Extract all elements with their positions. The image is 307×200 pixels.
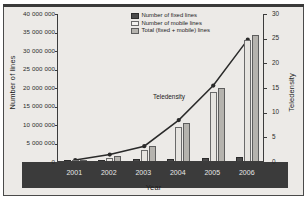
y2-tick-label: 30 xyxy=(272,11,279,17)
legend-label: Total (fixed + mobile) lines xyxy=(142,28,210,34)
teledensity-annotation: Teledensity xyxy=(153,93,185,100)
bar-mobile-2005 xyxy=(210,92,217,162)
bar-mobile-2004 xyxy=(175,127,182,162)
y2-tick-label: 0 xyxy=(272,159,276,165)
x-axis-label: Year xyxy=(0,183,307,192)
teledensity-point-2002 xyxy=(108,153,112,157)
legend-label: Number of mobile lines xyxy=(142,21,202,27)
y-tick-label: 35 000 000 xyxy=(1,29,55,35)
legend-item-mobile: Number of mobile lines xyxy=(131,21,210,27)
legend-item-total: Total (fixed + mobile) lines xyxy=(131,28,210,34)
legend-item-fixed: Number of fixed lines xyxy=(131,13,210,19)
x-axis-baseline xyxy=(57,161,264,163)
bar-total-2004 xyxy=(183,123,190,162)
y2-axis-label: Teledensity xyxy=(287,58,296,128)
y-tick-label: 40 000 000 xyxy=(1,11,55,17)
y2-tick-label: 10 xyxy=(272,109,279,115)
legend-swatch-fixed-icon xyxy=(131,13,139,18)
chart-figure: 05 000 00010 000 00015 000 00020 000 000… xyxy=(0,0,307,200)
teledensity-point-2005 xyxy=(211,83,215,87)
y-tick-label: 5 000 000 xyxy=(1,140,55,146)
y2-tick-label: 5 xyxy=(272,134,276,140)
legend-swatch-mobile-icon xyxy=(131,21,139,26)
y2-tick-mark xyxy=(264,162,267,163)
teledensity-line xyxy=(58,14,265,162)
chart-legend: Number of fixed linesNumber of mobile li… xyxy=(131,13,210,36)
y2-tick-label: 20 xyxy=(272,60,279,66)
bar-total-2005 xyxy=(218,88,225,162)
bar-mobile-2006 xyxy=(244,40,251,162)
x-tick-label-2006: 2006 xyxy=(227,169,267,176)
teledensity-point-2003 xyxy=(142,144,146,148)
y-axis-label: Number of lines xyxy=(8,43,17,123)
y2-tick-label: 25 xyxy=(272,35,279,41)
bar-total-2006 xyxy=(252,35,259,162)
y-tick-label: 0 xyxy=(1,159,55,165)
teledensity-point-2004 xyxy=(177,118,181,122)
y-tick-label: 10 000 000 xyxy=(1,122,55,128)
bar-total-2003 xyxy=(149,146,156,162)
legend-label: Number of fixed lines xyxy=(142,13,197,19)
legend-swatch-total-icon xyxy=(131,28,139,33)
y2-tick-label: 15 xyxy=(272,85,279,91)
plot-area xyxy=(57,14,264,162)
